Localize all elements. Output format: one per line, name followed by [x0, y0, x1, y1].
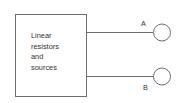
- block-label-line: resistors: [31, 42, 59, 53]
- block-label-line: sources: [31, 63, 59, 74]
- terminal-a-label: A: [141, 19, 146, 28]
- terminal-b-label: B: [143, 83, 148, 92]
- block-label-line: Linear: [31, 31, 59, 42]
- terminal-a-icon: [154, 24, 171, 41]
- circuit-diagram: [0, 0, 186, 103]
- terminal-b-icon: [154, 68, 171, 85]
- block-label-line: and: [31, 52, 59, 63]
- block-label: Linear resistors and sources: [31, 31, 59, 73]
